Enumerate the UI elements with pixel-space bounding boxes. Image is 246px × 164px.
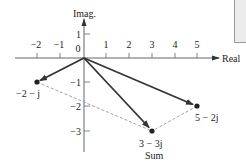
x-tick-label: 2	[127, 39, 132, 50]
y-tick-label: −2	[70, 101, 81, 112]
x-tick-label: 4	[173, 39, 178, 50]
y-tick-label: 1	[76, 29, 81, 40]
x-ticks	[37, 53, 197, 58]
complex-plane-diagram: Real Imag. −2 −1 0 1 2 3 4 5	[0, 0, 246, 164]
point-sum	[149, 128, 154, 133]
point-b	[194, 103, 199, 108]
vector-sum	[84, 58, 149, 128]
point-a-label: −2 − j	[16, 88, 40, 99]
x-tick-label: −1	[54, 39, 65, 50]
real-axis-label: Real	[222, 53, 241, 64]
point-a	[34, 79, 39, 84]
x-tick-label: 5	[195, 39, 200, 50]
points	[34, 79, 199, 133]
point-sum-sublabel: Sum	[145, 150, 164, 161]
y-tick-label: −1	[70, 77, 81, 88]
corner-panel	[234, 0, 246, 43]
point-b-label: 5 − 2j	[195, 112, 218, 123]
complex-plane-svg: Real Imag. −2 −1 0 1 2 3 4 5	[0, 0, 246, 164]
point-sum-label: 3 − 3j	[139, 138, 162, 149]
x-tick-label: 1	[104, 39, 109, 50]
x-tick-label: 0	[76, 43, 81, 54]
x-tick-labels: −2 −1 0 1 2 3 4 5	[31, 39, 200, 54]
vector-b	[84, 58, 193, 105]
y-tick-label: −3	[70, 126, 81, 137]
x-tick-label: 3	[150, 39, 155, 50]
y-ticks	[84, 34, 90, 131]
x-tick-label: −2	[31, 39, 42, 50]
imag-axis-label: Imag.	[73, 8, 96, 19]
vectors	[40, 58, 193, 128]
parallelogram-dashed-lines	[37, 82, 197, 131]
